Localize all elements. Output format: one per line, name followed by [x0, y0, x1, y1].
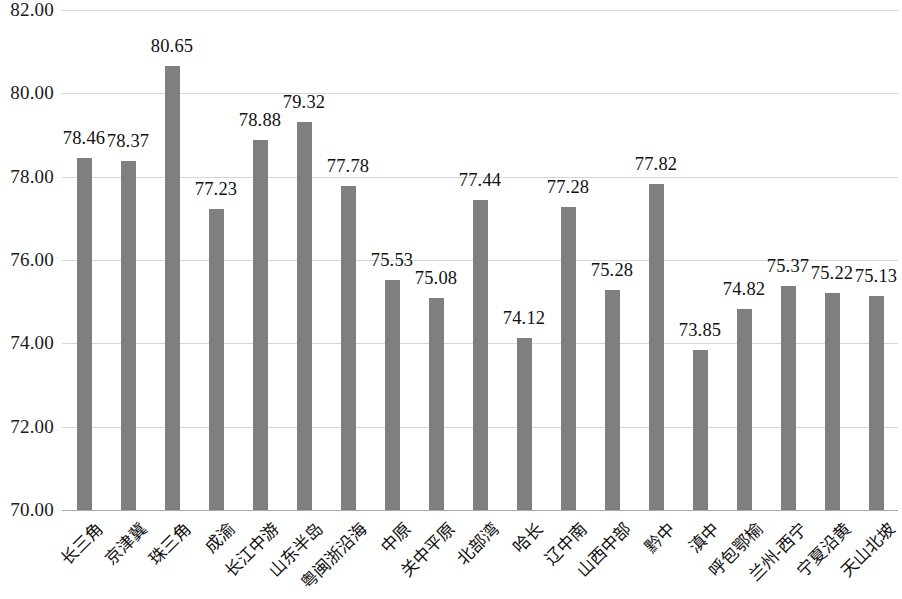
bar-value-label: 77.44 — [459, 170, 502, 191]
y-axis-tick-label: 78.00 — [10, 166, 54, 188]
bar-value-label: 77.82 — [635, 154, 678, 175]
bar-value-label: 75.13 — [855, 266, 898, 287]
bar-value-label: 75.22 — [811, 263, 854, 284]
bar-value-label: 75.08 — [415, 268, 458, 289]
bar — [473, 200, 488, 510]
bar — [649, 184, 664, 510]
bar-value-label: 74.82 — [723, 279, 766, 300]
x-axis-category-label: 黔中 — [638, 516, 680, 558]
x-axis-category-label: 珠三角 — [142, 516, 196, 570]
bar — [517, 338, 532, 510]
bar-value-label: 78.37 — [107, 131, 150, 152]
bar-value-label: 78.46 — [63, 128, 106, 149]
x-axis-category-label: 京津冀 — [98, 516, 152, 570]
bar-value-label: 78.88 — [239, 110, 282, 131]
bar-value-label: 75.28 — [591, 260, 634, 281]
bar — [77, 158, 92, 511]
bar — [605, 290, 620, 510]
gridline: 70.00 — [62, 510, 898, 511]
gridline: 80.00 — [62, 93, 898, 94]
bar — [165, 66, 180, 510]
bar-value-label: 75.37 — [767, 256, 810, 277]
plot-area: 82.0080.0078.0076.0074.0072.0070.00 78.4… — [62, 10, 898, 510]
y-axis-tick-label: 82.00 — [10, 0, 54, 21]
x-axis-category-label: 长三角 — [54, 516, 108, 570]
bar — [385, 280, 400, 510]
bar — [253, 140, 268, 510]
bar — [341, 186, 356, 510]
y-axis-tick-label: 74.00 — [10, 332, 54, 354]
bar-value-label: 77.78 — [327, 156, 370, 177]
y-axis-tick-label: 72.00 — [10, 416, 54, 438]
bar — [781, 286, 796, 510]
gridline: 82.00 — [62, 10, 898, 11]
y-axis-tick-label: 70.00 — [10, 499, 54, 521]
bar — [209, 209, 224, 510]
bar-value-label: 75.53 — [371, 250, 414, 271]
bar — [737, 309, 752, 510]
bar — [121, 161, 136, 510]
bar-value-label: 77.28 — [547, 177, 590, 198]
y-axis-tick-label: 80.00 — [10, 82, 54, 104]
bar — [561, 207, 576, 510]
bar-value-label: 80.65 — [151, 36, 194, 57]
bar-value-label: 73.85 — [679, 320, 722, 341]
bar — [693, 350, 708, 510]
x-axis-category-label: 北部湾 — [450, 516, 504, 570]
bar — [297, 122, 312, 510]
bar-value-label: 77.23 — [195, 179, 238, 200]
bar-value-label: 79.32 — [283, 92, 326, 113]
bar-value-label: 74.12 — [503, 308, 546, 329]
bar — [429, 298, 444, 510]
bar — [825, 293, 840, 511]
bar — [869, 296, 884, 510]
bar-chart: 82.0080.0078.0076.0074.0072.0070.00 78.4… — [0, 0, 902, 599]
y-axis-tick-label: 76.00 — [10, 249, 54, 271]
